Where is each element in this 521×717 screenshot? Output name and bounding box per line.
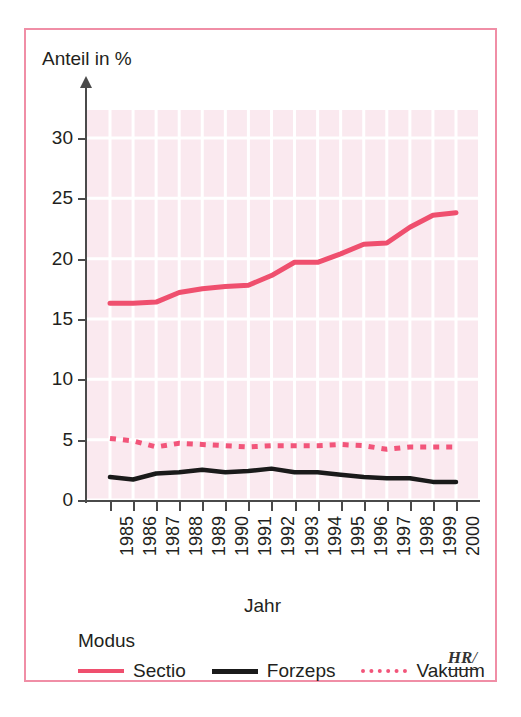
x-tick-mark bbox=[202, 502, 204, 511]
x-tick-label: 1994 bbox=[325, 516, 346, 556]
y-tick-label: 15 bbox=[52, 308, 73, 330]
legend-item-label: Sectio bbox=[133, 660, 186, 682]
y-axis-ticks: 051015202530 bbox=[26, 30, 73, 684]
x-tick-mark bbox=[387, 502, 389, 511]
x-tick-mark bbox=[156, 502, 158, 511]
chart-figure: Anteil in % 051015202530 198519861987198… bbox=[24, 28, 497, 682]
hr-watermark: HR/ bbox=[448, 648, 477, 670]
x-tick-label: 1988 bbox=[186, 516, 207, 556]
x-tick-mark bbox=[133, 502, 135, 511]
y-tick-label: 30 bbox=[52, 127, 73, 149]
x-tick-label: 1998 bbox=[417, 516, 438, 556]
x-tick-label: 1989 bbox=[209, 516, 230, 556]
x-axis-title: Jahr bbox=[26, 595, 499, 617]
x-tick-mark bbox=[456, 502, 458, 511]
x-tick-mark bbox=[271, 502, 273, 511]
y-tick-mark bbox=[78, 500, 87, 502]
y-tick-mark bbox=[78, 259, 87, 261]
x-tick-label: 2000 bbox=[463, 516, 484, 556]
plot-area-wrapper bbox=[86, 110, 478, 500]
y-tick-mark bbox=[78, 440, 87, 442]
x-tick-mark bbox=[179, 502, 181, 511]
hr-watermark-slash: / bbox=[472, 648, 477, 667]
y-tick-label: 10 bbox=[52, 368, 73, 390]
legend-items: SectioForzepsVakuum bbox=[78, 660, 478, 682]
x-tick-mark bbox=[410, 502, 412, 511]
x-axis-spine bbox=[85, 500, 480, 502]
x-tick-label: 1986 bbox=[140, 516, 161, 556]
legend-item-forzeps: Forzeps bbox=[212, 660, 336, 682]
y-tick-mark bbox=[78, 138, 87, 140]
x-tick-label: 1991 bbox=[255, 516, 276, 556]
y-tick-mark bbox=[78, 319, 87, 321]
legend-swatch-icon bbox=[78, 669, 124, 673]
series-lines bbox=[86, 110, 478, 500]
x-tick-label: 1993 bbox=[302, 516, 323, 556]
x-tick-mark bbox=[433, 502, 435, 511]
series-line-vakuum bbox=[110, 438, 456, 449]
x-tick-mark bbox=[341, 502, 343, 511]
y-tick-label: 20 bbox=[52, 248, 73, 270]
legend-swatch-icon bbox=[361, 669, 407, 673]
legend: Modus SectioForzepsVakuum bbox=[78, 630, 478, 682]
legend-title: Modus bbox=[78, 630, 478, 652]
x-tick-mark bbox=[110, 502, 112, 511]
x-tick-label: 1992 bbox=[278, 516, 299, 556]
x-tick-label: 1996 bbox=[371, 516, 392, 556]
legend-item-label: Forzeps bbox=[267, 660, 336, 682]
x-tick-label: 1985 bbox=[117, 516, 138, 556]
x-tick-label: 1995 bbox=[348, 516, 369, 556]
legend-item-sectio: Sectio bbox=[78, 660, 186, 682]
x-tick-label: 1997 bbox=[394, 516, 415, 556]
x-tick-mark bbox=[295, 502, 297, 511]
y-tick-label: 25 bbox=[52, 187, 73, 209]
x-tick-label: 1990 bbox=[232, 516, 253, 556]
x-tick-mark bbox=[318, 502, 320, 511]
x-tick-mark bbox=[248, 502, 250, 511]
hr-watermark-text: HR bbox=[448, 648, 473, 667]
y-tick-label: 5 bbox=[62, 429, 73, 451]
x-tick-label: 1999 bbox=[440, 516, 461, 556]
x-tick-label: 1987 bbox=[163, 516, 184, 556]
x-tick-mark bbox=[364, 502, 366, 511]
y-tick-label: 0 bbox=[62, 489, 73, 511]
x-tick-mark bbox=[225, 502, 227, 511]
y-tick-mark bbox=[78, 198, 87, 200]
y-tick-mark bbox=[78, 379, 87, 381]
series-line-forzeps bbox=[110, 469, 456, 482]
legend-swatch-icon bbox=[212, 669, 258, 674]
series-line-sectio bbox=[110, 213, 456, 304]
